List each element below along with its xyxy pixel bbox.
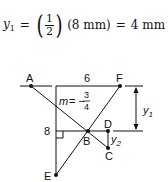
label-y1: y1 <box>142 104 153 119</box>
y1-arrow-up-icon <box>134 87 139 93</box>
dimension-top-6: 6 <box>84 72 90 84</box>
point-f <box>118 84 122 88</box>
dimension-left-8: 8 <box>44 125 50 137</box>
geometry-diagram: A F B D C E 6 8 y1 y2 m = − 3 4 <box>0 0 168 182</box>
label-c: C <box>105 150 113 162</box>
point-e <box>54 173 58 177</box>
y1-arrow-down-icon <box>134 124 139 130</box>
slope-equals: = − <box>69 95 85 107</box>
label-e: E <box>44 170 51 182</box>
label-d: D <box>104 118 112 130</box>
slope-numerator: 3 <box>84 90 89 100</box>
label-b: B <box>83 135 90 147</box>
label-y2: y2 <box>110 133 122 148</box>
label-f: F <box>116 72 123 84</box>
point-b <box>86 129 90 133</box>
slope-denominator: 4 <box>84 102 89 112</box>
right-angle-marker <box>56 131 63 138</box>
slope-m: m <box>59 95 68 107</box>
label-a: A <box>26 72 34 84</box>
point-a <box>29 84 33 88</box>
